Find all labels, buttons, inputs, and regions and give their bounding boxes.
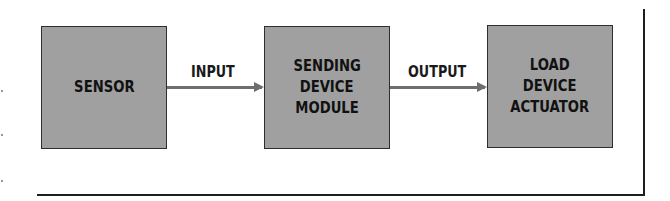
load-device-actuator-line-2: DEVICE	[523, 76, 577, 97]
sending-device-module-line-1: SENDING	[293, 56, 360, 77]
sending-device-module-block: SENDING DEVICE MODULE	[264, 26, 390, 149]
output-arrow	[390, 86, 485, 89]
load-device-actuator-block: LOAD DEVICE ACTUATOR	[487, 25, 613, 148]
input-label: INPUT	[191, 63, 235, 81]
output-label: OUTPUT	[408, 63, 466, 81]
scan-artifact	[1, 134, 3, 136]
frame-right-border	[643, 9, 645, 196]
sending-device-module-line-2: DEVICE	[300, 77, 354, 98]
frame-bottom-border	[37, 194, 645, 196]
scan-artifact	[1, 180, 3, 182]
load-device-actuator-line-3: ACTUATOR	[511, 97, 590, 118]
input-arrow	[167, 86, 262, 89]
sending-device-module-line-3: MODULE	[295, 98, 358, 119]
scan-artifact	[1, 90, 3, 92]
load-device-actuator-line-1: LOAD	[530, 55, 570, 76]
sensor-label: SENSOR	[74, 77, 134, 98]
sensor-block: SENSOR	[41, 26, 167, 149]
